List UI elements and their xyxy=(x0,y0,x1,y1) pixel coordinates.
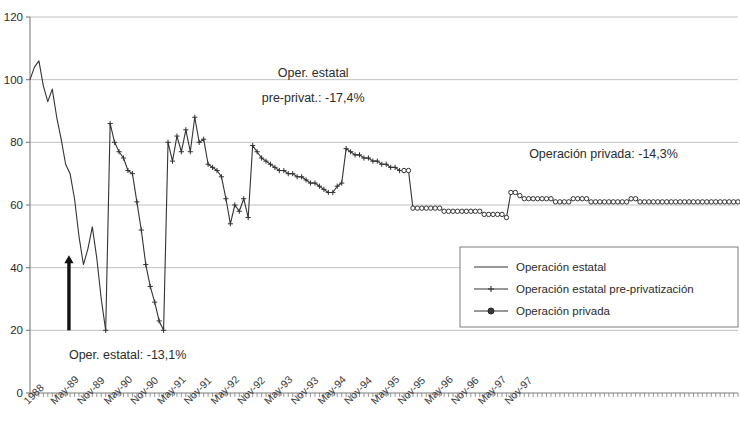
x-axis-ticks: 1988May-89Nov-89May-90Nov-90May-91Nov-91… xyxy=(21,373,738,406)
marker-cross xyxy=(103,328,108,333)
x-tick-label: Nov-92 xyxy=(235,374,268,407)
marker-circle xyxy=(736,200,740,204)
marker-cross xyxy=(179,149,184,154)
marker-circle xyxy=(651,200,655,204)
marker-circle xyxy=(562,200,566,204)
x-tick-label: May-91 xyxy=(155,373,188,406)
chart-legend: Operación estatalOperación estatal pre-p… xyxy=(460,247,738,327)
marker-circle xyxy=(411,206,415,210)
marker-circle xyxy=(415,206,419,210)
x-tick-label: 1988 xyxy=(21,381,46,406)
marker-circle xyxy=(598,200,602,204)
marker-circle xyxy=(602,200,606,204)
marker-circle xyxy=(638,200,642,204)
series-3 xyxy=(402,168,740,219)
marker-circle xyxy=(624,200,628,204)
marker-cross xyxy=(174,133,179,138)
marker-circle xyxy=(665,200,669,204)
marker-circle xyxy=(705,200,709,204)
x-tick-label: May-96 xyxy=(422,373,455,406)
marker-circle xyxy=(486,212,490,216)
marker-circle xyxy=(442,209,446,213)
y-tick-label: 40 xyxy=(10,262,23,274)
marker-cross xyxy=(112,140,117,145)
marker-cross xyxy=(223,196,228,201)
marker-circle xyxy=(420,206,424,210)
marker-circle xyxy=(455,209,459,213)
marker-circle xyxy=(656,200,660,204)
annot-privada: Operación privada: -14,3% xyxy=(529,147,678,161)
marker-circle xyxy=(406,168,410,172)
arrow-estatal xyxy=(64,255,73,330)
marker-cross xyxy=(170,159,175,164)
legend-item-label: Operación privada xyxy=(516,305,611,317)
marker-circle xyxy=(429,206,433,210)
x-tick-label: Nov-96 xyxy=(448,374,481,407)
marker-circle xyxy=(473,209,477,213)
legend-item-label: Operación estatal pre-privatización xyxy=(516,283,694,295)
marker-circle xyxy=(660,200,664,204)
marker-circle xyxy=(571,197,575,201)
marker-circle xyxy=(433,206,437,210)
x-tick-label: May-89 xyxy=(48,373,81,406)
marker-circle xyxy=(567,200,571,204)
y-tick-label: 120 xyxy=(4,11,23,23)
marker-circle xyxy=(437,206,441,210)
x-tick-label: May-92 xyxy=(208,373,241,406)
marker-circle xyxy=(718,200,722,204)
marker-circle xyxy=(478,209,482,213)
annot-pre-privat-line2: pre-privat.: -17,4% xyxy=(262,91,365,105)
x-tick-label: May-95 xyxy=(368,373,401,406)
annot-estatal: Oper. estatal: -13,1% xyxy=(69,348,186,362)
marker-circle xyxy=(669,200,673,204)
marker-cross xyxy=(152,300,157,305)
chart-container: 1201008060402001988May-89Nov-89May-90Nov… xyxy=(0,0,740,444)
legend-circle xyxy=(488,308,494,314)
marker-circle xyxy=(575,197,579,201)
marker-circle xyxy=(629,197,633,201)
marker-circle xyxy=(500,212,504,216)
marker-circle xyxy=(633,197,637,201)
marker-circle xyxy=(509,190,513,194)
marker-circle xyxy=(549,197,553,201)
marker-cross xyxy=(161,328,166,333)
y-tick-label: 20 xyxy=(10,324,23,336)
marker-circle xyxy=(673,200,677,204)
marker-circle xyxy=(687,200,691,204)
x-tick-label: Nov-89 xyxy=(74,374,107,407)
marker-circle xyxy=(580,197,584,201)
marker-circle xyxy=(682,200,686,204)
marker-circle xyxy=(709,200,713,204)
marker-circle xyxy=(544,197,548,201)
marker-circle xyxy=(424,206,428,210)
marker-cross xyxy=(108,121,113,126)
y-tick-label: 60 xyxy=(10,199,23,211)
marker-cross xyxy=(157,318,162,323)
marker-circle xyxy=(482,212,486,216)
x-tick-label: Nov-94 xyxy=(342,374,375,407)
marker-cross xyxy=(241,196,246,201)
marker-cross xyxy=(148,284,153,289)
marker-circle xyxy=(731,200,735,204)
marker-circle xyxy=(611,200,615,204)
marker-circle xyxy=(527,197,531,201)
marker-circle xyxy=(589,200,593,204)
series-2 xyxy=(103,115,407,333)
marker-cross xyxy=(246,215,251,220)
marker-circle xyxy=(464,209,468,213)
marker-circle xyxy=(402,168,406,172)
marker-circle xyxy=(491,212,495,216)
marker-circle xyxy=(540,197,544,201)
x-tick-label: Nov-95 xyxy=(395,374,428,407)
marker-circle xyxy=(691,200,695,204)
marker-cross xyxy=(192,115,197,120)
x-tick-label: May-93 xyxy=(261,373,294,406)
marker-circle xyxy=(495,212,499,216)
marker-circle xyxy=(647,200,651,204)
x-tick-label: Nov-97 xyxy=(502,374,535,407)
marker-circle xyxy=(522,197,526,201)
arrow-head xyxy=(64,255,73,263)
y-axis-ticks: 120100806040200 xyxy=(4,11,30,399)
marker-circle xyxy=(616,200,620,204)
marker-circle xyxy=(504,215,508,219)
